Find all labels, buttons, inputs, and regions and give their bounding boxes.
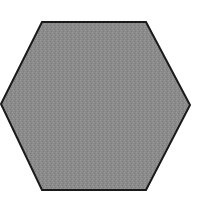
hexagon-diagram [0, 0, 207, 198]
hexagon-shape [1, 22, 190, 190]
